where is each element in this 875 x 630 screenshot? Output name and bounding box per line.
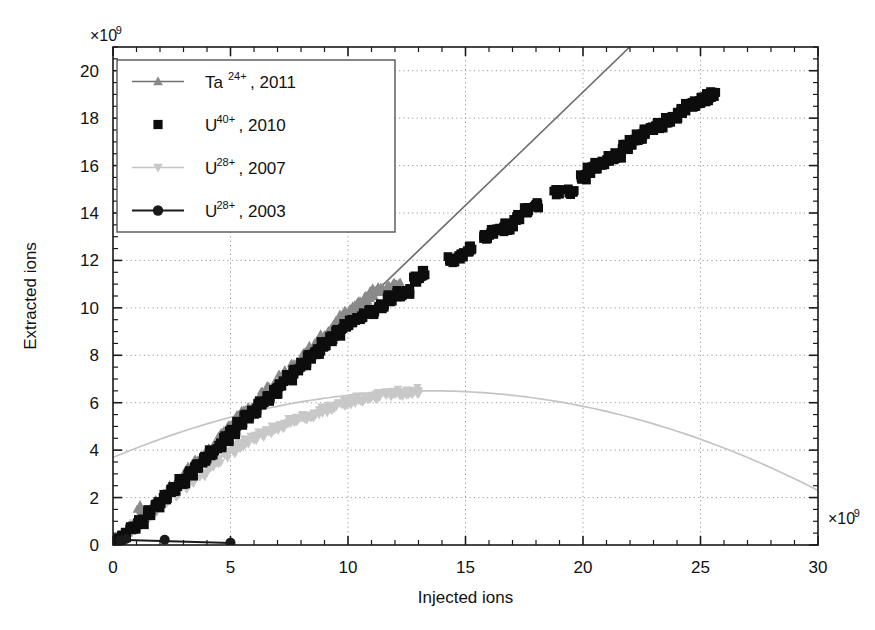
legend-label-base-U28-2007: U (205, 159, 217, 178)
data-point (297, 363, 306, 372)
x-tick-label: 20 (574, 558, 593, 577)
legend: Ta24+, 2011U40+, 2010U28+, 2007U28+, 200… (117, 60, 395, 232)
y-axis-exponent-label-base: ×10 (90, 27, 117, 44)
data-point (453, 253, 462, 262)
data-point (135, 516, 144, 525)
y-tick-label: 20 (80, 62, 99, 81)
x-tick-label: 10 (339, 558, 358, 577)
y-tick-label: 10 (80, 299, 99, 318)
data-point (520, 203, 529, 212)
legend-label-year-Ta24-2011: , 2011 (250, 73, 296, 92)
chart-figure: 05101520253002468101214161820×109×109Inj… (0, 0, 875, 630)
data-point (417, 272, 426, 281)
data-point (145, 509, 154, 518)
legend-label-base-U40-2010: U (205, 116, 217, 135)
data-point (153, 120, 162, 129)
legend-label-year-U28-2007: , 2007 (239, 159, 286, 178)
data-point (121, 534, 131, 544)
y-tick-label: 16 (80, 157, 99, 176)
data-point (160, 535, 170, 545)
legend-label-base-Ta24-2011: Ta (205, 73, 224, 92)
data-point (205, 451, 214, 460)
y-tick-label: 18 (80, 109, 99, 128)
data-point (364, 306, 373, 315)
data-point (552, 191, 561, 200)
data-point (503, 226, 512, 235)
legend-label-base-U28-2003: U (205, 202, 217, 221)
legend-label-year-U40-2010: , 2010 (239, 116, 286, 135)
legend-label-charge-U28-2007: 28+ (217, 156, 236, 168)
x-axis-title: Injected ions (418, 588, 513, 607)
data-point (632, 129, 641, 138)
x-tick-label: 5 (226, 558, 235, 577)
data-point (153, 205, 163, 215)
y-tick-label: 12 (80, 251, 99, 270)
x-axis-exponent-label: ×109 (828, 507, 860, 527)
y-tick-label: 14 (80, 204, 99, 223)
data-point (707, 90, 716, 99)
legend-label-charge-U40-2010: 40+ (217, 113, 236, 125)
y-tick-label: 0 (90, 536, 99, 555)
y-tick-label: 4 (90, 441, 99, 460)
legend-label-year-U28-2003: , 2003 (239, 202, 286, 221)
data-point (216, 443, 225, 452)
x-tick-label: 0 (108, 558, 117, 577)
y-axis-title: Extracted ions (21, 242, 40, 350)
data-point (565, 189, 574, 198)
x-axis-exponent-label-exponent: 9 (854, 507, 860, 519)
data-point (312, 350, 321, 359)
x-tick-label: 30 (809, 558, 828, 577)
y-axis-exponent-label: ×109 (90, 24, 122, 44)
y-tick-label: 6 (90, 394, 99, 413)
data-point (444, 252, 453, 261)
x-axis-exponent-label-base: ×10 (828, 510, 855, 527)
x-tick-label: 25 (691, 558, 710, 577)
data-point (612, 153, 621, 162)
x-tick-label: 15 (456, 558, 475, 577)
data-point (272, 390, 281, 399)
y-tick-label: 8 (90, 346, 99, 365)
legend-label-charge-U28-2003: 28+ (217, 199, 236, 211)
data-point (531, 203, 540, 212)
data-point (175, 479, 184, 488)
legend-label-charge-Ta24-2011: 24+ (228, 70, 247, 82)
data-point (465, 242, 474, 251)
y-tick-label: 2 (90, 489, 99, 508)
y-axis-exponent-label-exponent: 9 (116, 24, 122, 36)
data-point (354, 314, 363, 323)
